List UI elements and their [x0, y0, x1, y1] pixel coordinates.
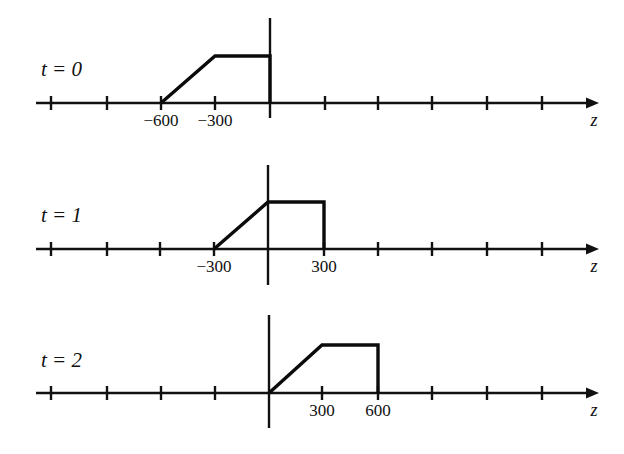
time-label-t2: t = 2 — [41, 348, 83, 372]
axis-name-t1: z — [589, 256, 597, 276]
waveform-t0 — [161, 56, 270, 103]
figure-canvas: t = 0 −600 −300 z — [0, 0, 624, 454]
tick-label-t2-plus600: 600 — [365, 401, 391, 420]
tick-label-t0-minus600: −600 — [143, 111, 178, 130]
axis-arrow-head-t1 — [586, 244, 599, 255]
axis-name-t0: z — [589, 110, 597, 130]
axis-arrow-head-t0 — [586, 98, 599, 109]
axis-name-t2: z — [589, 400, 597, 420]
panel-t0: t = 0 −600 −300 z — [36, 18, 599, 130]
figure-root: t = 0 −600 −300 z — [0, 0, 624, 454]
tick-label-t0-minus300: −300 — [197, 111, 232, 130]
tick-label-t1-plus300: 300 — [311, 257, 337, 276]
time-label-t1: t = 1 — [41, 203, 82, 227]
axis-arrow-head-t2 — [586, 388, 599, 399]
tick-label-t1-minus300: −300 — [196, 257, 231, 276]
time-label-t0: t = 0 — [41, 57, 83, 81]
panel-t1: t = 1 −300 300 z — [36, 165, 599, 285]
panel-t2: t = 2 300 600 z — [36, 315, 599, 428]
waveform-t2 — [269, 345, 378, 393]
tick-label-t2-plus300: 300 — [309, 401, 335, 420]
